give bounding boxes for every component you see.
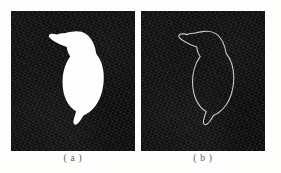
panel-a-silhouette (11, 11, 135, 151)
silhouette-image (11, 11, 135, 151)
kingfisher-contour-shape (179, 31, 234, 124)
figure-container: ( a ) ( b ) (0, 0, 281, 173)
contour-image (141, 11, 265, 151)
kingfisher-silhouette-shape (49, 31, 104, 124)
panel-b-contour (141, 11, 265, 151)
caption-panel-a: ( a ) (11, 153, 135, 163)
caption-panel-b: ( b ) (141, 153, 265, 163)
